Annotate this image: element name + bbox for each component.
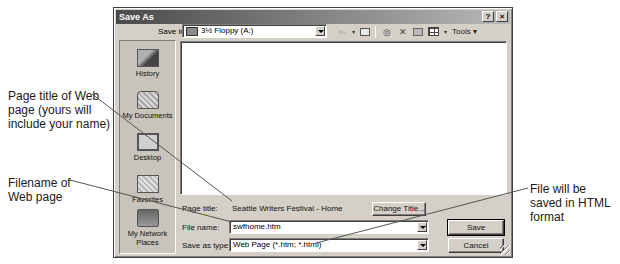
resize-grip[interactable] xyxy=(500,245,510,255)
places-bar: History My Documents Desktop Favorites M… xyxy=(119,40,176,254)
place-history[interactable]: History xyxy=(120,49,175,78)
place-desktop[interactable]: Desktop xyxy=(120,133,175,162)
title-bar[interactable]: Save As ? × xyxy=(116,10,510,24)
back-dropdown-icon[interactable]: ▾ xyxy=(352,28,355,35)
callout-page-title: Page title of Web page (yours will inclu… xyxy=(8,89,118,131)
search-web-icon[interactable]: ◎ xyxy=(381,27,392,37)
save-as-type-label: Save as type: xyxy=(182,241,230,250)
file-name-label: File name: xyxy=(182,223,219,232)
place-desktop-label: Desktop xyxy=(120,153,175,162)
place-favorites-label: Favorites xyxy=(120,195,175,204)
save-button[interactable]: Save xyxy=(448,220,504,235)
place-favorites[interactable]: Favorites xyxy=(120,175,175,204)
toolbar-separator xyxy=(375,26,376,38)
change-title-button[interactable]: Change Title... xyxy=(372,202,426,216)
place-my-documents[interactable]: My Documents xyxy=(120,91,175,120)
back-icon[interactable]: ⇦ xyxy=(336,27,347,37)
save-in-dropdown[interactable]: 3½ Floppy (A:) xyxy=(182,24,327,38)
floppy-drive-icon xyxy=(186,27,198,36)
callout-filename: Filename of Web page xyxy=(8,176,88,204)
page-title-value: Seattle Writers Festival - Home xyxy=(232,204,343,213)
views-dropdown-icon[interactable]: ▾ xyxy=(444,28,447,35)
desktop-icon xyxy=(137,133,159,151)
page-title-label: Page title: xyxy=(182,204,218,213)
delete-icon[interactable]: ✕ xyxy=(397,27,408,37)
up-one-level-icon[interactable] xyxy=(360,28,370,36)
chevron-down-icon[interactable] xyxy=(417,222,427,232)
file-name-value: swfhome.htm xyxy=(233,222,281,231)
views-icon[interactable] xyxy=(428,27,439,36)
place-my-network-places[interactable]: My Network Places xyxy=(120,209,175,247)
network-places-icon xyxy=(137,209,159,227)
callout-html-format: File will be saved in HTML format xyxy=(530,182,620,224)
history-icon xyxy=(137,49,159,67)
save-as-type-dropdown[interactable]: Web Page (*.htm; *.html) xyxy=(229,238,429,252)
save-as-type-value: Web Page (*.htm; *.html) xyxy=(233,240,321,249)
chevron-down-icon[interactable] xyxy=(417,240,427,250)
file-name-input[interactable]: swfhome.htm xyxy=(229,220,429,234)
chevron-down-icon[interactable] xyxy=(315,26,325,36)
place-network-label-2: Places xyxy=(120,238,175,247)
dialog-title: Save As xyxy=(119,12,154,22)
file-list[interactable] xyxy=(180,41,507,195)
place-network-label-1: My Network xyxy=(120,229,175,238)
save-as-dialog: Save As ? × Save in: 3½ Floppy (A:) ⇦ ▾ … xyxy=(113,7,513,258)
cancel-button[interactable]: Cancel xyxy=(448,238,504,253)
place-history-label: History xyxy=(120,69,175,78)
title-buttons: ? × xyxy=(482,11,508,22)
new-folder-icon[interactable] xyxy=(413,28,423,36)
save-in-value: 3½ Floppy (A:) xyxy=(201,26,253,35)
tools-menu[interactable]: Tools ▾ xyxy=(452,27,477,36)
close-button[interactable]: × xyxy=(496,11,508,22)
help-button[interactable]: ? xyxy=(482,11,494,22)
toolbar: ⇦ ▾ ◎ ✕ ▾ Tools ▾ xyxy=(336,25,477,38)
my-documents-icon xyxy=(137,91,159,109)
favorites-icon xyxy=(137,175,159,193)
place-my-documents-label: My Documents xyxy=(120,111,175,120)
